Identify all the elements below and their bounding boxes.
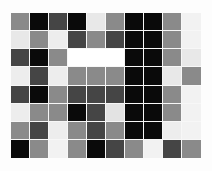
heatmap-cell	[163, 49, 182, 67]
heatmap-cell	[163, 67, 182, 85]
heatmap-cell	[125, 140, 144, 158]
heatmap-cell	[144, 31, 163, 49]
heatmap-cell	[68, 31, 87, 49]
heatmap-row	[11, 31, 201, 49]
heatmap-cell	[106, 104, 125, 122]
heatmap-cell	[30, 122, 49, 140]
heatmap-cell	[49, 49, 68, 67]
heatmap-cell	[106, 31, 125, 49]
heatmap-cell	[30, 67, 49, 85]
heatmap-cell	[182, 104, 201, 122]
heatmap-cell	[182, 13, 201, 31]
heatmap-cell	[87, 86, 106, 104]
heatmap-cell	[30, 13, 49, 31]
heatmap-cell	[182, 140, 201, 158]
heatmap-cell	[125, 67, 144, 85]
heatmap-cell-merged	[68, 49, 125, 67]
heatmap-cell	[49, 104, 68, 122]
heatmap-cell	[144, 67, 163, 85]
heatmap-cell	[49, 122, 68, 140]
heatmap-cell	[87, 140, 106, 158]
heatmap-cell	[106, 140, 125, 158]
heatmap-cell	[144, 140, 163, 158]
heatmap-cell	[106, 86, 125, 104]
heatmap-cell	[106, 67, 125, 85]
heatmap-cell	[11, 86, 30, 104]
heatmap-cell	[144, 122, 163, 140]
heatmap-row	[11, 13, 201, 31]
heatmap-cell	[30, 31, 49, 49]
heatmap-cell	[125, 13, 144, 31]
heatmap-cell	[182, 67, 201, 85]
heatmap-cell	[163, 86, 182, 104]
heatmap-cell	[68, 122, 87, 140]
heatmap-row	[11, 49, 201, 67]
heatmap-figure	[0, 0, 212, 171]
heatmap-cell	[30, 49, 49, 67]
heatmap-cell	[49, 140, 68, 158]
heatmap-cell	[11, 140, 30, 158]
heatmap-cell	[49, 67, 68, 85]
heatmap-cell	[125, 49, 144, 67]
heatmap-cell	[87, 67, 106, 85]
heatmap-cell	[68, 140, 87, 158]
heatmap-cell	[144, 104, 163, 122]
heatmap-cell	[106, 13, 125, 31]
heatmap-cell	[106, 122, 125, 140]
heatmap-cell	[182, 31, 201, 49]
heatmap-cell	[163, 31, 182, 49]
heatmap-cell	[87, 13, 106, 31]
heatmap-grid	[11, 13, 201, 158]
heatmap-cell	[68, 86, 87, 104]
heatmap-row	[11, 104, 201, 122]
heatmap-cell	[49, 13, 68, 31]
heatmap-row	[11, 122, 201, 140]
heatmap-cell	[125, 122, 144, 140]
heatmap-cell	[125, 31, 144, 49]
heatmap-cell	[11, 31, 30, 49]
heatmap-cell	[144, 13, 163, 31]
heatmap-cell	[11, 104, 30, 122]
heatmap-cell	[163, 104, 182, 122]
heatmap-row	[11, 86, 201, 104]
heatmap-cell	[11, 122, 30, 140]
heatmap-cell	[182, 86, 201, 104]
heatmap-cell	[87, 122, 106, 140]
heatmap-cell	[11, 67, 30, 85]
heatmap-cell	[49, 86, 68, 104]
heatmap-cell	[182, 49, 201, 67]
heatmap-cell	[163, 13, 182, 31]
heatmap-cell	[125, 86, 144, 104]
heatmap-cell	[87, 31, 106, 49]
heatmap-cell	[11, 49, 30, 67]
heatmap-cell	[144, 86, 163, 104]
heatmap-cell	[68, 104, 87, 122]
heatmap-cell	[49, 31, 68, 49]
heatmap-cell	[30, 104, 49, 122]
heatmap-cell	[182, 122, 201, 140]
heatmap-cell	[30, 86, 49, 104]
heatmap-cell	[87, 104, 106, 122]
heatmap-cell	[68, 13, 87, 31]
heatmap-cell	[144, 49, 163, 67]
heatmap-cell	[125, 104, 144, 122]
heatmap-cell	[68, 67, 87, 85]
heatmap-cell	[163, 122, 182, 140]
heatmap-row	[11, 67, 201, 85]
heatmap-cell	[163, 140, 182, 158]
heatmap-cell	[11, 13, 30, 31]
heatmap-row	[11, 140, 201, 158]
heatmap-cell	[30, 140, 49, 158]
